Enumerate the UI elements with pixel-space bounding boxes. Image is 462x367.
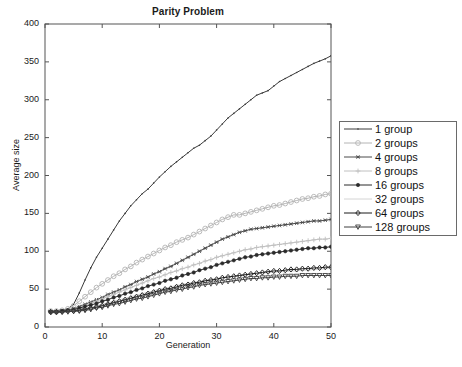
x-tick-label: 30 [202,331,232,341]
series-line [48,236,333,314]
legend-marker-icon [343,136,373,150]
legend-label: 128 groups [373,220,430,234]
x-tick-label: 50 [316,331,346,341]
y-tick-label: 200 [9,170,39,180]
y-tick-label: 250 [9,132,39,142]
x-tick-label: 40 [259,331,289,341]
y-tick-label: 150 [9,207,39,217]
legend-item-64-groups[interactable]: 64 groups [340,206,456,220]
legend-marker-icon [343,192,373,206]
legend-label: 8 groups [373,164,418,178]
legend-item-16-groups[interactable]: 16 groups [340,178,456,192]
chart-figure: Parity Problem Generation Average size 0… [0,0,462,367]
legend-item-8-groups[interactable]: 8 groups [340,164,456,178]
legend-marker-icon [343,178,373,192]
y-tick-label: 50 [9,283,39,293]
x-tick-label: 0 [30,331,60,341]
legend-item-1-group[interactable]: 1 group [340,122,456,136]
legend-label: 16 groups [373,178,424,192]
y-tick-label: 400 [9,18,39,28]
y-tick-label: 0 [9,321,39,331]
legend-item-2-groups[interactable]: 2 groups [340,136,456,150]
y-tick-label: 300 [9,94,39,104]
legend-label: 1 group [373,122,412,136]
legend-item-32-groups[interactable]: 32 groups [340,192,456,206]
legend-marker-icon [343,206,373,220]
y-tick-label: 100 [9,245,39,255]
y-tick-label: 350 [9,56,39,66]
legend-item-128-groups[interactable]: 128 groups [340,220,456,234]
legend-marker-icon [343,150,373,164]
legend-label: 64 groups [373,206,424,220]
legend-label: 2 groups [373,136,418,150]
legend-marker-icon [343,220,373,234]
legend-label: 4 groups [373,150,418,164]
chart-legend[interactable]: 1 group2 groups4 groups8 groups16 groups… [339,121,457,236]
x-tick-label: 20 [144,331,174,341]
legend-marker-icon [343,122,373,136]
x-tick-label: 10 [87,331,117,341]
legend-item-4-groups[interactable]: 4 groups [340,150,456,164]
legend-label: 32 groups [373,192,424,206]
legend-marker-icon [343,164,373,178]
